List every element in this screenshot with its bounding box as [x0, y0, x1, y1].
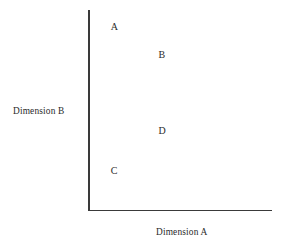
data-point-label-a: A [111, 21, 118, 32]
data-point-label-c: C [111, 165, 118, 176]
scatter-chart-figure: Dimension B Dimension A ABDC [0, 0, 286, 245]
plot-area: ABDC [0, 0, 286, 245]
x-axis-line [88, 210, 272, 212]
y-axis-title: Dimension B [13, 105, 64, 117]
x-axis-title: Dimension A [156, 226, 207, 238]
data-point-label-b: B [159, 49, 166, 60]
y-axis-line [88, 10, 90, 211]
data-point-label-d: D [159, 125, 166, 136]
